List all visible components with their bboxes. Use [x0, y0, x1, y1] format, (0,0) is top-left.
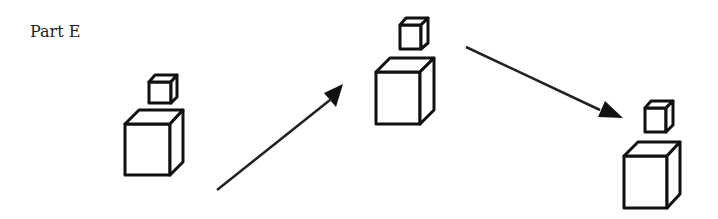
arrow-left-to-middle	[217, 84, 343, 190]
middle-small-cube	[400, 18, 428, 49]
left-big-cube	[125, 110, 183, 175]
middle-big-cube	[376, 58, 434, 124]
arrow-middle-to-right	[466, 47, 623, 118]
right-big-cube	[624, 142, 680, 208]
diagram-canvas	[0, 0, 718, 219]
right-small-cube	[645, 101, 673, 132]
left-small-cube	[149, 75, 177, 103]
